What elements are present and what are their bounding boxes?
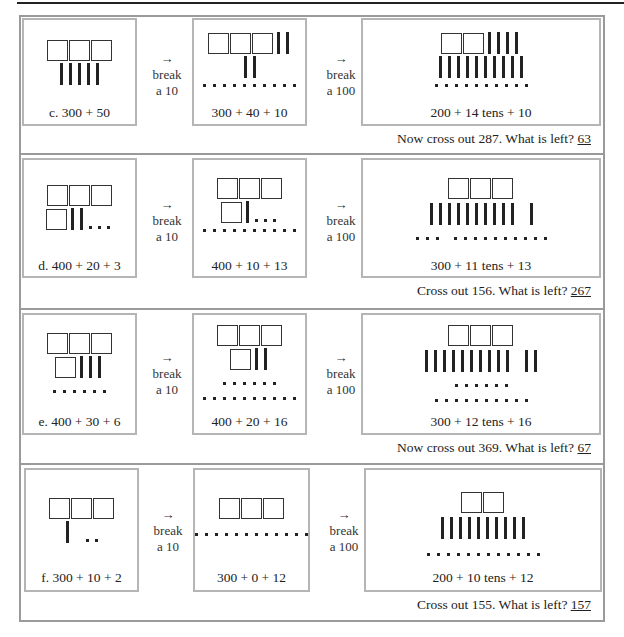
break-hundred-arrow: → break a 100	[316, 197, 366, 245]
exercise-row-e: e. 400 + 30 + 6 → break a 10 400 + 20 + …	[19, 310, 605, 465]
model-caption: 300 + 12 tens + 16	[363, 414, 599, 430]
cross-out-question: Now cross out 369. What is left? 67	[397, 440, 591, 456]
right-arrow-icon: →	[142, 350, 192, 366]
break-ten-arrow: → break a 10	[142, 51, 192, 99]
model-caption: 300 + 0 + 12	[195, 570, 308, 586]
model-caption: 200 + 10 tens + 12	[366, 570, 600, 586]
right-arrow-icon: →	[316, 197, 366, 213]
right-arrow-icon: →	[319, 507, 369, 523]
model-caption: d. 400 + 20 + 3	[24, 258, 135, 274]
break-hundred-arrow: → break a 100	[316, 350, 366, 398]
model-box-start: e. 400 + 30 + 6	[22, 313, 137, 435]
answer: 67	[578, 440, 592, 455]
answer: 63	[578, 131, 592, 146]
answer: 267	[571, 283, 591, 298]
model-caption: e. 400 + 30 + 6	[24, 414, 135, 430]
page-top-rule	[17, 2, 624, 4]
model-box-after-ten: 400 + 20 + 16	[192, 313, 307, 435]
exercise-row-c: c. 300 + 50 → break a 10 300 + 40 + 10 →…	[19, 15, 605, 155]
model-caption: 300 + 40 + 10	[194, 105, 305, 121]
model-caption: c. 300 + 50	[24, 105, 135, 121]
break-hundred-arrow: → break a 100	[316, 51, 366, 99]
cross-out-question: Now cross out 287. What is left? 63	[397, 131, 591, 147]
model-box-start: c. 300 + 50	[22, 18, 137, 126]
model-box-start: f. 300 + 10 + 2	[24, 468, 139, 592]
exercise-row-f: f. 300 + 10 + 2 → break a 10 300 + 0 + 1…	[19, 465, 605, 622]
break-ten-arrow: → break a 10	[142, 350, 192, 398]
right-arrow-icon: →	[142, 51, 192, 67]
right-arrow-icon: →	[316, 350, 366, 366]
model-box-start: d. 400 + 20 + 3	[22, 158, 137, 278]
right-arrow-icon: →	[316, 51, 366, 67]
model-caption: 400 + 10 + 13	[194, 258, 305, 274]
model-caption: 200 + 14 tens + 10	[363, 105, 599, 121]
model-caption: 300 + 11 tens + 13	[363, 258, 599, 274]
break-ten-arrow: → break a 10	[143, 507, 193, 555]
model-box-after-hundred: 300 + 11 tens + 13	[361, 158, 601, 278]
break-hundred-arrow: → break a 100	[319, 507, 369, 555]
answer: 157	[571, 597, 591, 612]
model-box-after-ten: 300 + 0 + 12	[193, 468, 310, 592]
model-box-after-ten: 400 + 10 + 13	[192, 158, 307, 278]
break-ten-arrow: → break a 10	[142, 197, 192, 245]
model-caption: 400 + 20 + 16	[194, 414, 305, 430]
cross-out-question: Cross out 156. What is left? 267	[417, 283, 591, 299]
model-box-after-hundred: 300 + 12 tens + 16	[361, 313, 601, 435]
model-box-after-hundred: 200 + 10 tens + 12	[364, 468, 602, 592]
right-arrow-icon: →	[143, 507, 193, 523]
model-box-after-ten: 300 + 40 + 10	[192, 18, 307, 126]
right-arrow-icon: →	[142, 197, 192, 213]
model-caption: f. 300 + 10 + 2	[26, 570, 137, 586]
model-box-after-hundred: 200 + 14 tens + 10	[361, 18, 601, 126]
exercise-row-d: d. 400 + 20 + 3 → break a 10 400 + 10 + …	[19, 155, 605, 310]
cross-out-question: Cross out 155. What is left? 157	[417, 597, 591, 613]
